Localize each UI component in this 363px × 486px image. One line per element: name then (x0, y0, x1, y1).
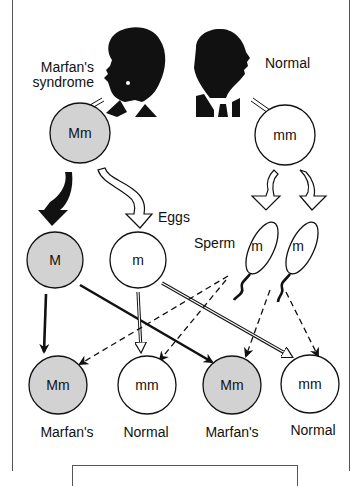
offspring-2-genotype: mm (135, 377, 158, 393)
offspring-4-genotype: mm (298, 376, 321, 392)
affected-parent-genotype: Mm (68, 125, 91, 141)
affected-parent-label-line2: syndrome (18, 75, 94, 90)
normal-person-silhouette-icon (194, 29, 250, 117)
normal-parent-genotype: mm (273, 127, 296, 143)
sperm-arrow-left-icon (252, 170, 280, 210)
sperm-1-icon (234, 218, 285, 300)
sperm-2-icon (278, 218, 325, 302)
eggs-label: Eggs (158, 210, 190, 225)
sperm-label: Sperm (194, 236, 235, 251)
M-egg-curved-arrow-icon (38, 172, 72, 226)
caption-box (72, 465, 298, 486)
offspring-2-label: Normal (123, 425, 168, 440)
fertilization-lines (44, 276, 318, 364)
offspring-1-label: Marfan's (40, 425, 93, 440)
egg-M-allele: M (49, 252, 61, 268)
egg-m-allele: m (132, 252, 144, 268)
affected-person-silhouette-icon (104, 27, 165, 117)
affected-parent-label-line1: Marfan's (18, 60, 94, 75)
m-egg-curved-arrow-icon (98, 168, 152, 228)
offspring-3-label: Marfan's (205, 425, 258, 440)
offspring-1-genotype: Mm (46, 377, 69, 393)
normal-parent-label: Normal (265, 56, 310, 71)
affected-parent-label: Marfan's syndrome (18, 60, 94, 90)
sperm-1-allele: m (251, 238, 263, 254)
sperm-arrow-right-icon (300, 170, 326, 210)
offspring-4-label: Normal (290, 423, 335, 438)
sperm-2-allele: m (292, 238, 304, 254)
offspring-3-genotype: Mm (220, 377, 243, 393)
